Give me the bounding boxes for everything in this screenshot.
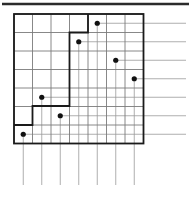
figure-background <box>0 0 191 197</box>
dot-6 <box>58 113 63 118</box>
dot-7 <box>21 132 26 137</box>
figure-root <box>0 0 191 197</box>
grid-diagram-svg <box>0 0 191 197</box>
dot-3 <box>113 58 118 63</box>
dot-2 <box>76 39 81 44</box>
dot-4 <box>132 76 137 81</box>
dot-1 <box>95 21 100 26</box>
dot-5 <box>39 95 44 100</box>
